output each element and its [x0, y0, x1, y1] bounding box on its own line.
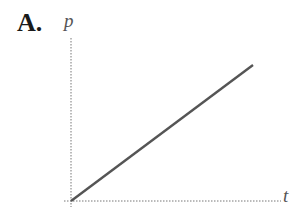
chart-plot [0, 0, 303, 210]
data-line [71, 65, 253, 201]
